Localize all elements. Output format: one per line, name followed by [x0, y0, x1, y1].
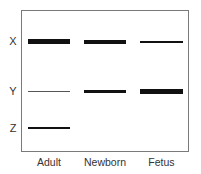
band-z-adult	[28, 127, 70, 129]
row-label-y: Y	[8, 85, 18, 97]
band-y-fetus	[140, 89, 183, 94]
band-x-newborn	[84, 40, 126, 44]
band-x-fetus	[140, 41, 183, 43]
band-x-adult	[28, 39, 70, 44]
column-label-adult: Adult	[28, 156, 70, 169]
row-label-x: X	[8, 35, 18, 47]
band-y-newborn	[84, 90, 126, 93]
column-label-newborn: Newborn	[80, 156, 130, 169]
band-y-adult	[28, 91, 70, 92]
row-label-z: Z	[8, 122, 18, 134]
gel-frame	[21, 10, 189, 152]
column-label-fetus: Fetus	[140, 156, 183, 169]
